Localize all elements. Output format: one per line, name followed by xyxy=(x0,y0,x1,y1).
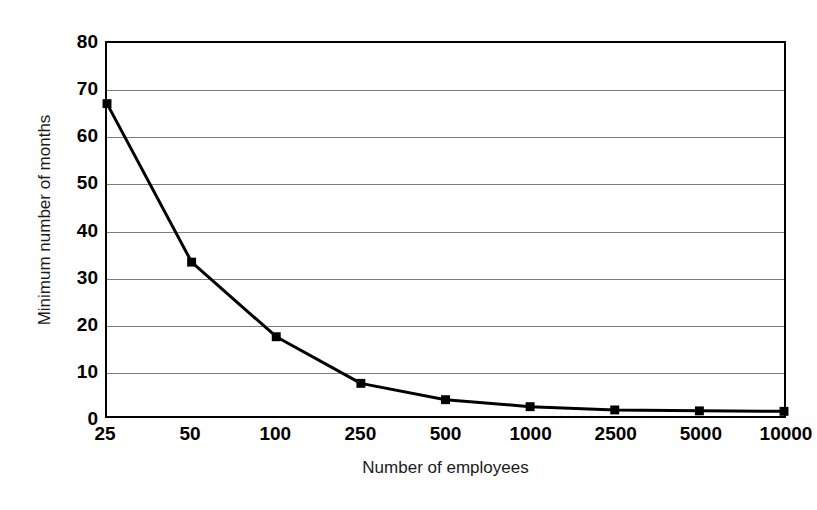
line-series xyxy=(107,43,784,416)
chart-figure: Minimum number of months 010203040506070… xyxy=(0,0,817,510)
y-tick-label-10: 10 xyxy=(46,361,98,380)
data-point-5000 xyxy=(695,406,704,415)
plot-area xyxy=(105,41,786,418)
data-point-250 xyxy=(356,379,365,388)
series-line xyxy=(107,104,784,412)
data-point-10000 xyxy=(780,407,789,416)
data-point-500 xyxy=(441,395,450,404)
y-tick-label-60: 60 xyxy=(46,126,98,145)
y-axis-tick-labels: 01020304050607080 xyxy=(46,41,98,418)
data-point-2500 xyxy=(610,405,619,414)
y-tick-label-50: 50 xyxy=(46,173,98,192)
y-tick-label-40: 40 xyxy=(46,220,98,239)
data-point-100 xyxy=(272,332,281,341)
y-tick-label-20: 20 xyxy=(46,314,98,333)
data-point-50 xyxy=(187,258,196,267)
x-axis-title: Number of employees xyxy=(105,458,786,478)
y-tick-label-30: 30 xyxy=(46,267,98,286)
data-point-25 xyxy=(103,99,112,108)
data-point-1000 xyxy=(526,402,535,411)
x-tick-label-10000: 10000 xyxy=(726,424,817,445)
x-axis-tick-labels: 255010025050010002500500010000 xyxy=(105,424,786,450)
y-tick-label-70: 70 xyxy=(46,79,98,98)
y-tick-label-80: 80 xyxy=(46,32,98,51)
